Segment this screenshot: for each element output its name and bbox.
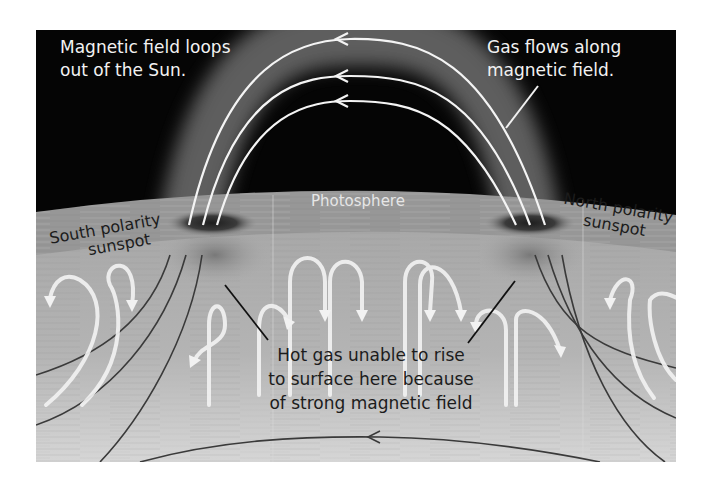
south-polarity-sunspot bbox=[167, 210, 257, 236]
label-hot-gas-line3: of strong magnetic field bbox=[269, 393, 472, 413]
label-hot-gas-line2: to surface here because bbox=[268, 369, 474, 389]
label-gas-flows-line1: Gas flows along bbox=[487, 37, 621, 57]
sunspot-diagram: Magnetic field loops out of the Sun. Gas… bbox=[0, 0, 713, 490]
label-magnetic-loops-line2: out of the Sun. bbox=[60, 60, 186, 80]
label-gas-flows-line2: magnetic field. bbox=[487, 60, 614, 80]
label-magnetic-loops-line1: Magnetic field loops bbox=[60, 37, 231, 57]
label-hot-gas-line1: Hot gas unable to rise bbox=[277, 345, 465, 365]
label-photosphere: Photosphere bbox=[311, 192, 405, 210]
